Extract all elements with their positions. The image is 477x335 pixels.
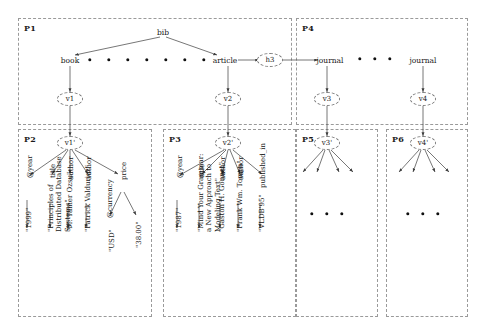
p3-edge-label-year: @year — [176, 155, 185, 178]
node-v1-prime: v1' — [57, 136, 83, 150]
p3-value-published-in: "VLDB'95" — [258, 194, 267, 232]
p2-value-year: "1999" — [25, 208, 34, 232]
node-v1: v1 — [57, 92, 83, 106]
p2-value-author2: "Patrick Valduriez" — [84, 154, 92, 232]
node-journal-right: journal — [410, 56, 437, 65]
diagram-canvas: P1 P4 P2 P3 P5 P6 — [0, 0, 477, 335]
node-h3: h3 — [257, 53, 283, 67]
p3-value-author1: "Gaston H. Gonnet" — [218, 154, 226, 232]
p3-value-author2: "Frank Wm. Tompa" — [236, 154, 244, 232]
p2-value-author2-text: "Patrick Valduriez" — [84, 165, 92, 232]
p2-value-currency: "USD" — [108, 229, 117, 252]
node-bib: bib — [157, 28, 169, 37]
p2-value-author1: "M. Tamer Ozsu" — [66, 154, 74, 232]
p3-value-author1-text: "Gaston H. Gonnet" — [218, 162, 226, 232]
p2-edge-label-price: price — [120, 162, 129, 180]
node-article: article — [213, 56, 238, 65]
node-v4: v4 — [410, 92, 436, 106]
p3-edge-label-published-in: published_in — [259, 143, 268, 188]
p3-value-author2-text: "Frank Wm. Tompa" — [236, 160, 244, 232]
p2-edge-label-currency: @currency — [106, 179, 115, 218]
node-v2-prime: v2' — [215, 136, 241, 150]
p2-edge-label-year: @year — [26, 155, 35, 178]
node-book: book — [61, 56, 79, 65]
p2-value-author1-text: "M. Tamer Ozsu" — [66, 172, 74, 232]
p3-value-year: "1987" — [175, 208, 184, 232]
node-journal-left: journal — [317, 56, 344, 65]
node-v4-prime: v4' — [410, 136, 436, 150]
node-v3: v3 — [314, 92, 340, 106]
p2-value-price: "38.00" — [135, 222, 144, 248]
node-v3-prime: v3' — [314, 136, 340, 150]
node-v2: v2 — [215, 92, 241, 106]
